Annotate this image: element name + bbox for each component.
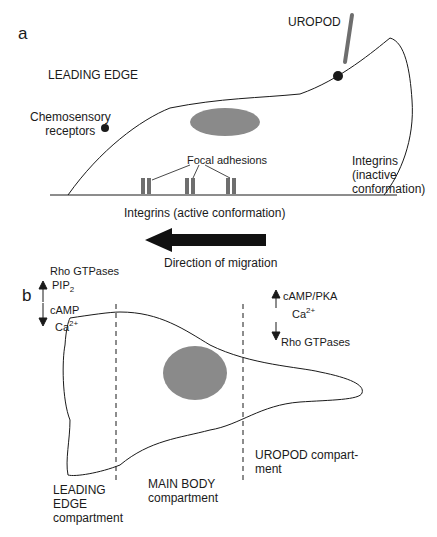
leading-edge-label: LEADING EDGE	[48, 68, 138, 82]
uropod-label: UROPOD	[288, 15, 341, 29]
ur-compartment: UROPOD compart-ment	[255, 448, 358, 476]
panel-b-letter: b	[22, 286, 31, 306]
direction-arrow	[145, 228, 266, 252]
le-down-1: cAMP	[50, 303, 79, 317]
le-up-2: PIP2	[52, 278, 74, 297]
panel-a-letter: a	[18, 24, 27, 44]
uropod-dot	[333, 71, 343, 81]
integrins-inactive-label: Integrins(inactiveconformation)	[352, 154, 425, 196]
nucleus-b	[163, 346, 227, 400]
ur-down-1: Rho GTPases	[281, 335, 350, 349]
nucleus-a	[190, 108, 260, 136]
ur-up-2: Ca2+	[292, 304, 315, 321]
integrins-active-label: Integrins (active conformation)	[124, 206, 285, 220]
le-compartment: LEADINGEDGEcompartment	[53, 483, 123, 525]
le-down-2: Ca2+	[55, 317, 78, 334]
chemosensory-label: Chemosensoryreceptors	[30, 110, 111, 138]
uropod-rod	[345, 15, 352, 62]
focal-adhesions-label: Focal adhesions	[187, 153, 267, 167]
integrins-active	[141, 178, 236, 194]
mb-compartment: MAIN BODYcompartment	[148, 477, 218, 505]
le-up-1: Rho GTPases	[50, 264, 119, 278]
direction-label: Direction of migration	[164, 256, 277, 270]
focal-leaders	[152, 165, 230, 180]
ur-up-1: cAMP/PKA	[283, 289, 337, 303]
